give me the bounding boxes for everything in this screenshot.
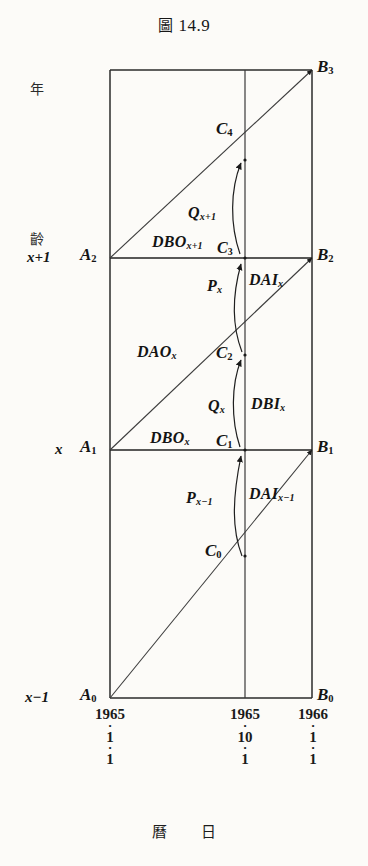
flow-dai-x-base: DAI <box>249 271 278 288</box>
flow-label-dbo-x-plus-1: DBOx+1 <box>152 234 203 251</box>
vertex-b1-base: B <box>317 437 328 456</box>
vertex-label-b0: B0 <box>317 686 334 705</box>
vertex-a2-base: A <box>80 245 91 264</box>
flow-q-x-plus-1-sub: x+1 <box>200 211 216 222</box>
flow-label-p-x-minus-1: Px−1 <box>186 490 213 507</box>
date-tick-1: 1965 • 10 • 1 <box>217 706 273 769</box>
vertex-b3-sub: 3 <box>328 65 333 76</box>
flow-label-q-x-plus-1: Qx+1 <box>188 205 216 222</box>
flow-dbo-x-sub: x <box>184 436 189 447</box>
vertex-c0-sub: 0 <box>216 549 221 560</box>
flow-dbo-x-plus-1-base: DBO <box>152 233 186 250</box>
flow-q-x-plus-1-base: Q <box>188 204 200 221</box>
flow-p-x-minus-1-base: P <box>186 489 196 506</box>
vertex-a0-base: A <box>80 685 91 704</box>
flow-p-x-minus-1-sub: x−1 <box>196 496 213 507</box>
vertex-label-b3: B3 <box>317 58 334 77</box>
flow-label-dbo-x: DBOx <box>150 430 190 447</box>
vertex-c3-sub: 3 <box>228 246 233 257</box>
flow-dbi-x-sub: x <box>280 402 285 413</box>
date-tick-0: 1965 • 1 • 1 <box>82 706 138 769</box>
vertex-a2-sub: 2 <box>91 253 96 264</box>
flow-label-dbi-x: DBIx <box>251 396 285 413</box>
vertex-b2-base: B <box>317 245 328 264</box>
flow-dai-x-minus-1-base: DAI <box>249 485 278 502</box>
vertex-label-a0: A0 <box>80 686 97 705</box>
flow-dbi-x-base: DBI <box>251 395 280 412</box>
vertex-c2-sub: 2 <box>227 351 232 362</box>
flow-dai-x-sub: x <box>278 278 283 289</box>
caption-left-char: 曆 <box>152 823 167 841</box>
vertex-a1-base: A <box>80 437 91 456</box>
vertex-b1-sub: 1 <box>328 445 333 456</box>
vertex-b2-sub: 2 <box>328 253 333 264</box>
flow-q-x-base: Q <box>208 397 220 414</box>
vertex-label-b2: B2 <box>317 246 334 265</box>
vertex-c3-base: C <box>217 239 228 256</box>
vertex-c4-sub: 4 <box>227 127 232 138</box>
axis-label-age-char-1: 齡 <box>30 232 44 246</box>
vertex-label-a1: A1 <box>80 438 97 457</box>
date-tick-1-day: 1 <box>217 751 273 769</box>
vertex-b0-base: B <box>317 685 328 704</box>
caption-right-char: 日 <box>201 823 216 841</box>
vertex-label-b1: B1 <box>317 438 334 457</box>
flow-dao-x-base: DAO <box>137 343 171 360</box>
age-tick-x: x <box>55 442 63 457</box>
date-tick-2: 1966 • 1 • 1 <box>285 706 341 769</box>
vertex-a0-sub: 0 <box>91 693 96 704</box>
flow-dao-x-sub: x <box>171 350 176 361</box>
flow-arrow-c3-c4 <box>233 163 241 254</box>
flow-label-dao-x: DAOx <box>137 344 177 361</box>
age-tick-x-plus-1: x+1 <box>27 250 51 265</box>
flow-arrow-c1-c2 <box>233 360 241 447</box>
flow-dbo-x-plus-1-sub: x+1 <box>186 240 202 251</box>
flow-arrow-c2-c3 <box>234 264 242 352</box>
vertex-c1-sub: 1 <box>227 439 232 450</box>
cohort-diagonal-a2-b3 <box>110 70 312 258</box>
axis-label-calendar-date: 曆日 <box>0 820 368 841</box>
flow-q-x-sub: x <box>220 404 225 415</box>
vertex-label-c3: C3 <box>217 240 233 257</box>
flow-label-dai-x: DAIx <box>249 272 283 289</box>
figure-page: 圖14.9 <box>0 0 368 866</box>
flow-label-dai-x-minus-1: DAIx−1 <box>249 486 295 503</box>
date-tick-0-day: 1 <box>82 751 138 769</box>
vertex-c0-base: C <box>205 541 216 560</box>
axis-label-age-char-0: 年 <box>30 82 44 96</box>
vertex-b0-sub: 0 <box>328 693 333 704</box>
vertex-label-c4: C4 <box>216 120 233 139</box>
vertex-c4-base: C <box>216 119 227 138</box>
flow-p-x-sub: x <box>217 284 222 295</box>
vertex-a1-sub: 1 <box>91 445 96 456</box>
flow-dai-x-minus-1-sub: x−1 <box>278 492 295 503</box>
vertex-label-a2: A2 <box>80 246 97 265</box>
age-tick-x-minus-1: x−1 <box>25 690 49 705</box>
flow-label-p-x: Px <box>207 278 222 295</box>
flow-p-x-base: P <box>207 277 217 294</box>
vertex-c2-base: C <box>216 343 227 362</box>
flow-dbo-x-base: DBO <box>150 429 184 446</box>
flow-label-q-x: Qx <box>208 398 225 415</box>
date-tick-2-day: 1 <box>285 751 341 769</box>
vertex-label-c2: C2 <box>216 344 233 363</box>
vertex-b3-base: B <box>317 57 328 76</box>
vertex-c1-base: C <box>216 431 227 450</box>
vertex-label-c0: C0 <box>205 542 222 561</box>
vertex-label-c1: C1 <box>216 432 233 451</box>
